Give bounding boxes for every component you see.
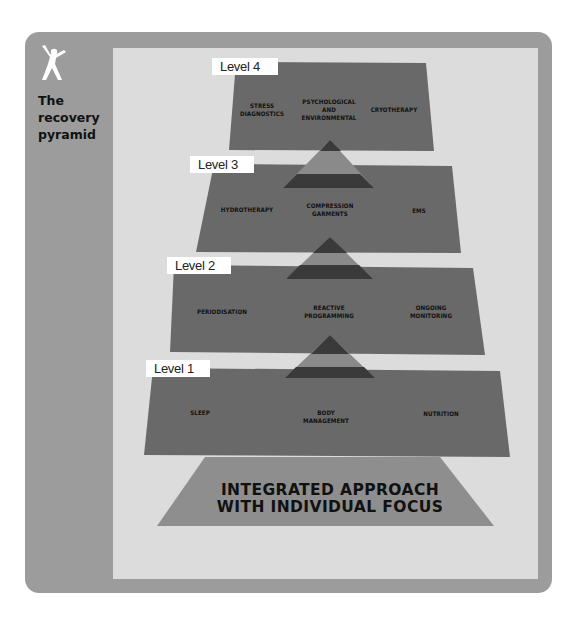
level-2-label: Level 2 xyxy=(167,257,231,274)
level-3-item: COMPRESSIONGARMENTS xyxy=(307,202,354,218)
level-1-label: Level 1 xyxy=(146,360,210,377)
level-3-item: HYDROTHERAPY xyxy=(221,206,274,214)
level-1-item: BODYMANAGEMENT xyxy=(303,409,349,425)
level-2-item: PERIODISATION xyxy=(197,308,247,316)
level-2-item: REACTIVEPROGRAMMING xyxy=(304,304,354,320)
level-1-item: SLEEP xyxy=(190,409,210,417)
level-1-item: NUTRITION xyxy=(423,410,459,418)
base-caption: INTEGRATED APPROACH WITH INDIVIDUAL FOCU… xyxy=(180,482,480,516)
level-4-label: Level 4 xyxy=(212,58,278,75)
level-3-item: EMS xyxy=(412,207,426,215)
pyramid-diagram xyxy=(0,0,576,618)
level-4-item: CRYOTHERAPY xyxy=(371,106,418,114)
base-caption-line: WITH INDIVIDUAL FOCUS xyxy=(180,499,480,516)
level-4-item: STRESSDIAGNOSTICS xyxy=(240,102,284,118)
level-2-item: ONGOINGMONITORING xyxy=(410,304,452,320)
level-3-label: Level 3 xyxy=(190,156,254,173)
base-caption-line: INTEGRATED APPROACH xyxy=(180,482,480,499)
connector-4-3-shadow xyxy=(283,174,374,188)
level-4-item: PSYCHOLOGICALANDENVIRONMENTAL xyxy=(302,98,357,122)
connector-2-1-shadow xyxy=(285,367,375,378)
connector-3-2-shadow xyxy=(286,265,373,279)
